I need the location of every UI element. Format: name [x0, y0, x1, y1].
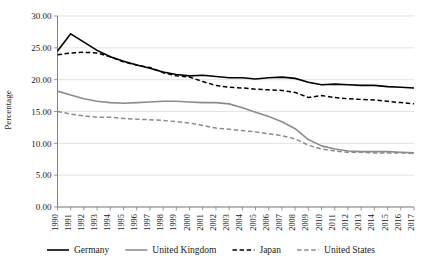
y-tick-label: 30.00	[31, 11, 52, 21]
x-tick-label: 2006	[262, 214, 271, 231]
x-tick-label: 2013	[354, 214, 363, 231]
x-tick-label: 1994	[103, 213, 112, 231]
line-chart: 0.005.0010.0015.0020.0025.0030.00 199019…	[0, 0, 422, 262]
x-axis-tick-marks	[58, 207, 415, 211]
gridlines	[58, 16, 415, 207]
chart-legend: GermanyUnited KingdomJapanUnited States	[47, 245, 375, 255]
series-lines	[58, 34, 415, 154]
y-tick-label: 5.00	[36, 170, 52, 180]
series-line-united-states	[58, 112, 415, 154]
x-tick-label: 2015	[381, 214, 390, 231]
chart-canvas: 0.005.0010.0015.0020.0025.0030.00 199019…	[0, 0, 422, 262]
legend-label-japan: Japan	[259, 245, 281, 255]
x-tick-label: 2010	[315, 214, 324, 231]
x-tick-label: 2009	[301, 214, 310, 231]
x-tick-label: 2005	[249, 214, 258, 231]
x-tick-label: 1998	[156, 214, 165, 231]
x-tick-label: 2008	[288, 214, 297, 231]
legend-label-united-kingdom: United Kingdom	[152, 245, 217, 255]
x-tick-label: 2007	[275, 214, 284, 231]
x-tick-label: 2012	[341, 214, 350, 231]
y-axis-title: Percentage	[3, 90, 13, 129]
y-tick-label: 25.00	[31, 43, 52, 53]
x-tick-label: 2004	[235, 213, 244, 231]
legend-label-germany: Germany	[74, 245, 110, 255]
y-axis-tick-marks	[54, 16, 58, 207]
y-tick-label: 10.00	[31, 139, 52, 149]
x-tick-label: 2016	[394, 214, 403, 231]
x-tick-label: 1995	[117, 214, 126, 231]
x-tick-label: 2014	[367, 213, 376, 231]
x-tick-label: 1997	[143, 214, 152, 231]
x-tick-label: 1993	[90, 214, 99, 231]
y-axis-tick-labels: 0.005.0010.0015.0020.0025.0030.00	[31, 11, 52, 212]
x-axis-tick-labels: 1990199119921993199419951996199719981999…	[51, 213, 417, 231]
x-tick-label: 2002	[209, 214, 218, 231]
x-tick-label: 1992	[77, 214, 86, 231]
x-tick-label: 2011	[328, 214, 337, 230]
x-tick-label: 1999	[169, 214, 178, 231]
x-tick-label: 1996	[130, 214, 139, 231]
x-tick-label: 1991	[64, 214, 73, 231]
x-tick-label: 2003	[222, 214, 231, 231]
x-tick-label: 1990	[51, 214, 60, 231]
x-tick-label: 2017	[407, 214, 416, 231]
y-tick-label: 0.00	[36, 202, 52, 212]
x-tick-label: 2001	[196, 214, 205, 231]
legend-label-united-states: United States	[324, 245, 375, 255]
y-tick-label: 20.00	[31, 75, 52, 85]
y-tick-label: 15.00	[31, 107, 52, 117]
x-tick-label: 2000	[183, 214, 192, 231]
